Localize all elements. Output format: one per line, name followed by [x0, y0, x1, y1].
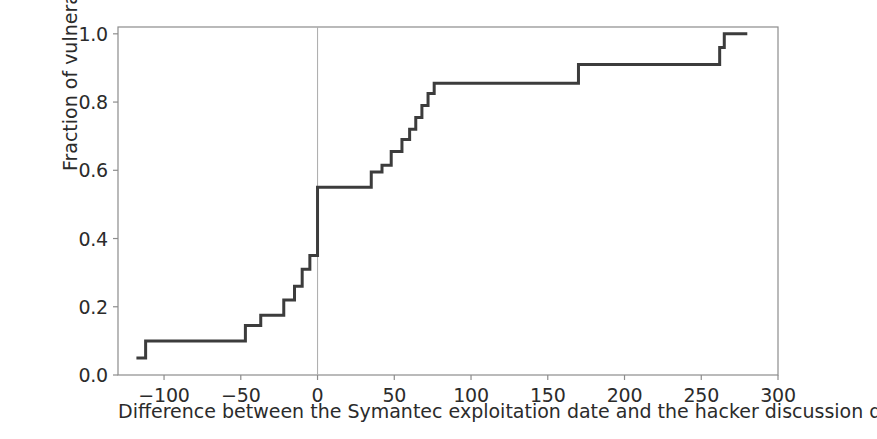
y-tick-label: 0.2 [62, 296, 108, 318]
x-axis-title: Difference between the Symantec exploita… [118, 400, 778, 422]
y-axis-title: Fraction of vulnerabilities [59, 0, 81, 211]
y-tick-label: 0.0 [62, 364, 108, 386]
y-tick-label: 0.4 [62, 228, 108, 250]
axes-border [118, 27, 778, 375]
x-tick-marks [164, 375, 778, 380]
axes-frame [118, 27, 778, 375]
figure-container: −100−50050100150200250300 0.00.20.40.60.… [0, 0, 877, 439]
y-tick-marks [113, 34, 118, 375]
chart-canvas [0, 0, 877, 439]
